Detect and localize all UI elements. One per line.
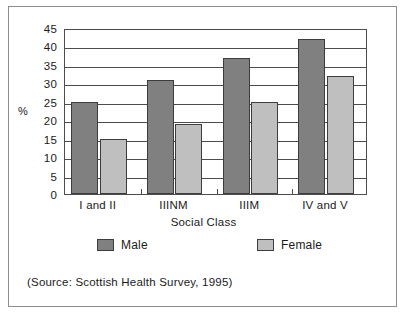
x-tick-label: I and II [79, 199, 116, 211]
bar-male-4 [298, 39, 325, 194]
y-tick-label: 15 [44, 134, 57, 145]
plot-area: % 051015202530354045 I and IIIIINMIIIMIV… [9, 7, 398, 207]
bar-male-3 [223, 58, 250, 194]
x-tick-label: IIIM [239, 199, 259, 211]
y-tick-label: 25 [44, 97, 57, 108]
bars-layer [65, 30, 366, 194]
x-tick-label: IV and V [302, 199, 348, 211]
bar-male-1 [71, 102, 98, 194]
x-axis-title: Social Class [9, 216, 398, 228]
x-axis-tick [141, 189, 142, 194]
legend-entry-male: Male [97, 238, 148, 252]
bar-male-2 [147, 80, 174, 194]
legend-entry-female: Female [257, 238, 322, 252]
y-axis-title: % [18, 105, 28, 117]
x-tick-label: IIINM [159, 199, 187, 211]
y-axis-tick-labels: 051015202530354045 [31, 29, 57, 195]
x-axis-tick [292, 189, 293, 194]
bar-female-1 [100, 139, 127, 194]
y-tick-label: 45 [44, 24, 57, 35]
y-tick-label: 10 [44, 153, 57, 164]
x-axis-tick-labels: I and IIIIINMIIIMIV and V [64, 199, 367, 215]
y-tick-label: 5 [50, 171, 57, 182]
bar-female-4 [327, 76, 354, 194]
legend-label: Female [281, 238, 322, 252]
plot-box [64, 29, 367, 195]
y-tick-label: 40 [44, 42, 57, 53]
bar-female-3 [251, 102, 278, 194]
x-axis-tick [217, 189, 218, 194]
legend-swatch-male [97, 239, 114, 251]
y-tick-label: 20 [44, 116, 57, 127]
y-tick-label: 0 [50, 190, 57, 201]
chart-legend: MaleFemale [9, 238, 398, 256]
legend-label: Male [121, 238, 148, 252]
y-tick-label: 35 [44, 60, 57, 71]
legend-swatch-female [257, 239, 274, 251]
chart-figure: % 051015202530354045 I and IIIIINMIIIMIV… [8, 6, 397, 307]
y-tick-label: 30 [44, 79, 57, 90]
bar-female-2 [175, 124, 202, 194]
source-note: (Source: Scottish Health Survey, 1995) [27, 276, 233, 288]
